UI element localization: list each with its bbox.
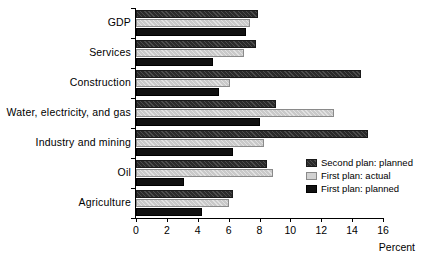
legend-label: Second plan: planned xyxy=(321,158,413,168)
y-axis-tick xyxy=(131,98,136,99)
bar-first-actual xyxy=(136,199,229,207)
legend-label: First plan: actual xyxy=(321,171,391,181)
bar-second-planned xyxy=(136,70,361,78)
bar-first-actual xyxy=(136,19,250,27)
legend-swatch-icon xyxy=(306,172,317,180)
category-label: Services xyxy=(0,47,131,58)
bar-group xyxy=(136,38,383,68)
bar-first-planned xyxy=(136,28,246,36)
bar-group xyxy=(136,128,383,158)
category-label: GDP xyxy=(0,17,131,28)
bar-first-planned xyxy=(136,208,202,216)
category-label: Agriculture xyxy=(0,197,131,208)
bar-first-actual xyxy=(136,109,334,117)
bar-second-planned xyxy=(136,130,368,138)
category-label: Construction xyxy=(0,77,131,88)
legend-label: First plan: planned xyxy=(321,184,399,194)
x-axis-tick xyxy=(352,218,353,222)
x-axis-title: Percent xyxy=(379,241,415,253)
x-axis-tick-label: 4 xyxy=(183,224,213,236)
legend-item: First plan: actual xyxy=(306,170,413,182)
bar-first-planned xyxy=(136,118,260,126)
bar-first-planned xyxy=(136,88,219,96)
y-axis-tick xyxy=(131,158,136,159)
x-axis-tick-label: 16 xyxy=(368,224,398,236)
x-axis-tick xyxy=(260,218,261,222)
y-axis-tick xyxy=(131,38,136,39)
category-axis-labels: GDPServicesConstructionWater, electricit… xyxy=(0,8,131,218)
x-axis-tick xyxy=(383,218,384,222)
legend-item: Second plan: planned xyxy=(306,157,413,169)
y-axis-tick xyxy=(131,8,136,9)
y-axis-tick xyxy=(131,128,136,129)
bar-second-planned xyxy=(136,190,233,198)
x-axis-tick xyxy=(229,218,230,222)
bar-first-planned xyxy=(136,58,213,66)
category-label: Water, electricity, and gas xyxy=(0,107,131,118)
bar-first-planned xyxy=(136,148,233,156)
bar-second-planned xyxy=(136,160,267,168)
x-axis-tick-label: 12 xyxy=(306,224,336,236)
x-axis-tick-label: 2 xyxy=(152,224,182,236)
x-axis-tick xyxy=(321,218,322,222)
x-axis-tick xyxy=(198,218,199,222)
bar-first-actual xyxy=(136,169,273,177)
bar-group xyxy=(136,8,383,38)
y-axis-tick xyxy=(131,68,136,69)
x-axis-tick-label: 10 xyxy=(275,224,305,236)
bar-group xyxy=(136,68,383,98)
x-axis-tick xyxy=(167,218,168,222)
bar-first-planned xyxy=(136,178,184,186)
bar-first-actual xyxy=(136,139,264,147)
legend-swatch-icon xyxy=(306,159,317,167)
y-axis-tick xyxy=(131,188,136,189)
x-axis-tick-label: 8 xyxy=(245,224,275,236)
category-label: Industry and mining xyxy=(0,137,131,148)
bar-first-actual xyxy=(136,49,244,57)
bar-group xyxy=(136,98,383,128)
x-axis-tick-label: 0 xyxy=(121,224,151,236)
x-axis-tick-label: 14 xyxy=(337,224,367,236)
chart-legend: Second plan: plannedFirst plan: actualFi… xyxy=(306,157,413,196)
y-axis-tick xyxy=(131,218,136,219)
bar-chart: GDPServicesConstructionWater, electricit… xyxy=(0,0,429,265)
legend-swatch-icon xyxy=(306,185,317,193)
bar-second-planned xyxy=(136,100,276,108)
legend-item: First plan: planned xyxy=(306,183,413,195)
bar-second-planned xyxy=(136,10,258,18)
category-label: Oil xyxy=(0,167,131,178)
x-axis-tick xyxy=(290,218,291,222)
x-axis-tick xyxy=(136,218,137,222)
bar-first-actual xyxy=(136,79,230,87)
x-axis-tick-label: 6 xyxy=(214,224,244,236)
bar-second-planned xyxy=(136,40,256,48)
